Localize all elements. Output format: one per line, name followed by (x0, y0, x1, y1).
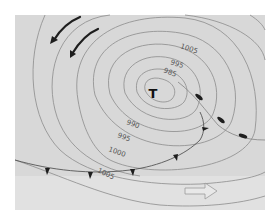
low-pressure-label: T (149, 86, 158, 101)
weather-map: T 1005 995 985 990 995 1000 1005 (0, 0, 278, 224)
